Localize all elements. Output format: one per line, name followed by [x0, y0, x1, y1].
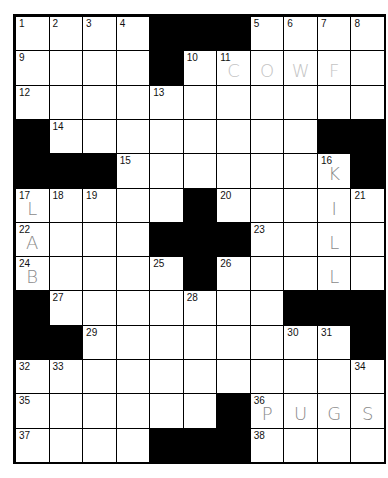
grid-cell[interactable]: 18 — [49, 188, 84, 223]
grid-cell[interactable] — [116, 85, 151, 120]
grid-cell[interactable]: 35 — [15, 393, 50, 428]
grid-cell[interactable] — [149, 393, 184, 428]
grid-cell[interactable]: O — [250, 50, 285, 85]
grid-cell[interactable] — [317, 359, 352, 394]
grid-cell[interactable] — [116, 290, 151, 325]
grid-cell[interactable] — [116, 393, 151, 428]
grid-cell[interactable] — [116, 50, 151, 85]
grid-cell[interactable]: 19 — [82, 188, 117, 223]
grid-cell[interactable] — [82, 393, 117, 428]
grid-cell[interactable] — [49, 393, 84, 428]
grid-cell[interactable] — [116, 256, 151, 291]
grid-cell[interactable]: 10 — [183, 50, 218, 85]
grid-cell[interactable]: 4 — [116, 16, 151, 51]
grid-cell[interactable] — [82, 290, 117, 325]
grid-cell[interactable] — [116, 359, 151, 394]
grid-cell[interactable]: 36P — [250, 393, 285, 428]
grid-cell[interactable]: 2 — [49, 16, 84, 51]
grid-cell[interactable]: 15 — [116, 153, 151, 188]
grid-cell[interactable] — [116, 222, 151, 257]
grid-cell[interactable] — [216, 359, 251, 394]
grid-cell[interactable] — [82, 85, 117, 120]
grid-cell[interactable]: 21 — [350, 188, 385, 223]
grid-cell[interactable]: 13 — [149, 85, 184, 120]
grid-cell[interactable] — [116, 119, 151, 154]
grid-cell[interactable] — [350, 85, 385, 120]
grid-cell[interactable] — [350, 256, 385, 291]
grid-cell[interactable] — [149, 188, 184, 223]
grid-cell[interactable]: S — [350, 393, 385, 428]
grid-cell[interactable] — [283, 188, 318, 223]
grid-cell[interactable]: 29 — [82, 325, 117, 360]
grid-cell[interactable]: 37 — [15, 428, 50, 463]
grid-cell[interactable] — [283, 256, 318, 291]
grid-cell[interactable]: 17L — [15, 188, 50, 223]
grid-cell[interactable]: 34 — [350, 359, 385, 394]
grid-cell[interactable] — [216, 119, 251, 154]
grid-cell[interactable] — [317, 85, 352, 120]
grid-cell[interactable] — [216, 85, 251, 120]
grid-cell[interactable] — [82, 256, 117, 291]
grid-cell[interactable] — [250, 359, 285, 394]
grid-cell[interactable]: 5 — [250, 16, 285, 51]
grid-cell[interactable]: 12 — [15, 85, 50, 120]
grid-cell[interactable] — [216, 325, 251, 360]
grid-cell[interactable] — [250, 256, 285, 291]
grid-cell[interactable] — [49, 256, 84, 291]
grid-cell[interactable] — [317, 428, 352, 463]
grid-cell[interactable] — [250, 153, 285, 188]
grid-cell[interactable] — [82, 50, 117, 85]
grid-cell[interactable] — [49, 50, 84, 85]
grid-cell[interactable] — [49, 428, 84, 463]
grid-cell[interactable]: U — [283, 393, 318, 428]
grid-cell[interactable]: 9 — [15, 50, 50, 85]
grid-cell[interactable] — [183, 85, 218, 120]
grid-cell[interactable] — [250, 290, 285, 325]
grid-cell[interactable]: 1 — [15, 16, 50, 51]
grid-cell[interactable]: G — [317, 393, 352, 428]
grid-cell[interactable]: 3 — [82, 16, 117, 51]
grid-cell[interactable]: L — [317, 256, 352, 291]
grid-cell[interactable] — [116, 428, 151, 463]
grid-cell[interactable]: F — [317, 50, 352, 85]
grid-cell[interactable] — [350, 50, 385, 85]
grid-cell[interactable] — [216, 153, 251, 188]
grid-cell[interactable]: I — [317, 188, 352, 223]
grid-cell[interactable]: 28 — [183, 290, 218, 325]
grid-cell[interactable]: 7 — [317, 16, 352, 51]
grid-cell[interactable]: 8 — [350, 16, 385, 51]
grid-cell[interactable] — [216, 290, 251, 325]
grid-cell[interactable] — [283, 359, 318, 394]
grid-cell[interactable] — [183, 359, 218, 394]
grid-cell[interactable] — [149, 359, 184, 394]
grid-cell[interactable] — [116, 188, 151, 223]
grid-cell[interactable]: 38 — [250, 428, 285, 463]
grid-cell[interactable] — [183, 119, 218, 154]
grid-cell[interactable] — [250, 325, 285, 360]
grid-cell[interactable]: W — [283, 50, 318, 85]
grid-cell[interactable] — [116, 325, 151, 360]
grid-cell[interactable]: 22A — [15, 222, 50, 257]
grid-cell[interactable]: 32 — [15, 359, 50, 394]
grid-cell[interactable]: 30 — [283, 325, 318, 360]
grid-cell[interactable] — [49, 85, 84, 120]
grid-cell[interactable] — [183, 325, 218, 360]
grid-cell[interactable] — [250, 119, 285, 154]
grid-cell[interactable] — [283, 428, 318, 463]
grid-cell[interactable]: L — [317, 222, 352, 257]
grid-cell[interactable] — [183, 153, 218, 188]
grid-cell[interactable] — [82, 359, 117, 394]
grid-cell[interactable]: 33 — [49, 359, 84, 394]
grid-cell[interactable]: 6 — [283, 16, 318, 51]
grid-cell[interactable]: 24B — [15, 256, 50, 291]
grid-cell[interactable] — [82, 428, 117, 463]
grid-cell[interactable] — [350, 428, 385, 463]
grid-cell[interactable]: 14 — [49, 119, 84, 154]
grid-cell[interactable]: 26 — [216, 256, 251, 291]
grid-cell[interactable] — [283, 153, 318, 188]
grid-cell[interactable] — [149, 290, 184, 325]
grid-cell[interactable] — [250, 85, 285, 120]
grid-cell[interactable]: 11C — [216, 50, 251, 85]
grid-cell[interactable] — [283, 222, 318, 257]
grid-cell[interactable] — [350, 222, 385, 257]
